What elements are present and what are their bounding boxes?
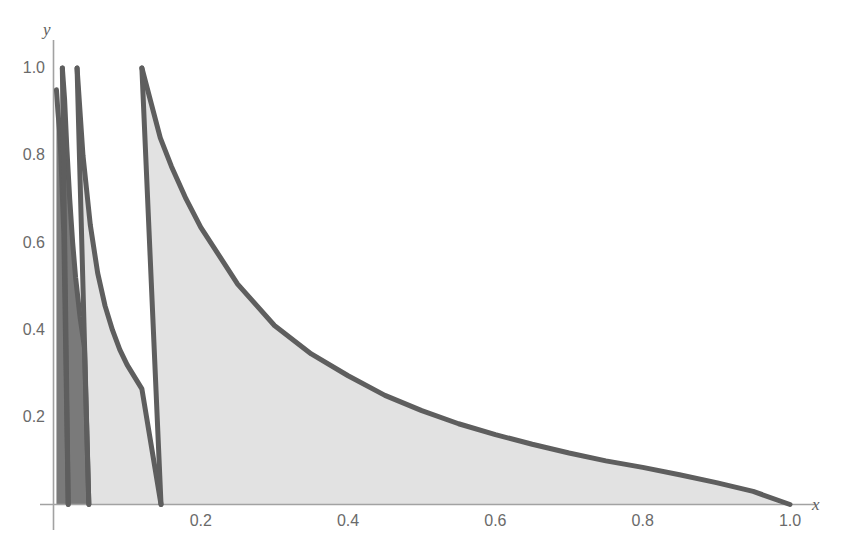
x-tick-label: 0.8 — [632, 512, 654, 530]
y-tick-label: 0.8 — [5, 146, 45, 164]
x-axis-label: x — [812, 495, 820, 515]
shaded-regions — [56, 68, 790, 505]
x-tick-label: 0.4 — [337, 512, 359, 530]
x-tick-label: 0.6 — [484, 512, 506, 530]
x-tick-label: 1.0 — [779, 512, 801, 530]
y-tick-label: 1.0 — [5, 59, 45, 77]
x-tick-label: 0.2 — [190, 512, 212, 530]
chart-canvas — [0, 0, 842, 559]
y-tick-label: 0.2 — [5, 408, 45, 426]
y-axis-label: y — [43, 20, 51, 40]
chart-figure: y x 0.20.40.60.81.0 0.20.40.60.81.0 — [0, 0, 842, 559]
y-tick-label: 0.4 — [5, 321, 45, 339]
y-tick-label: 0.6 — [5, 234, 45, 252]
